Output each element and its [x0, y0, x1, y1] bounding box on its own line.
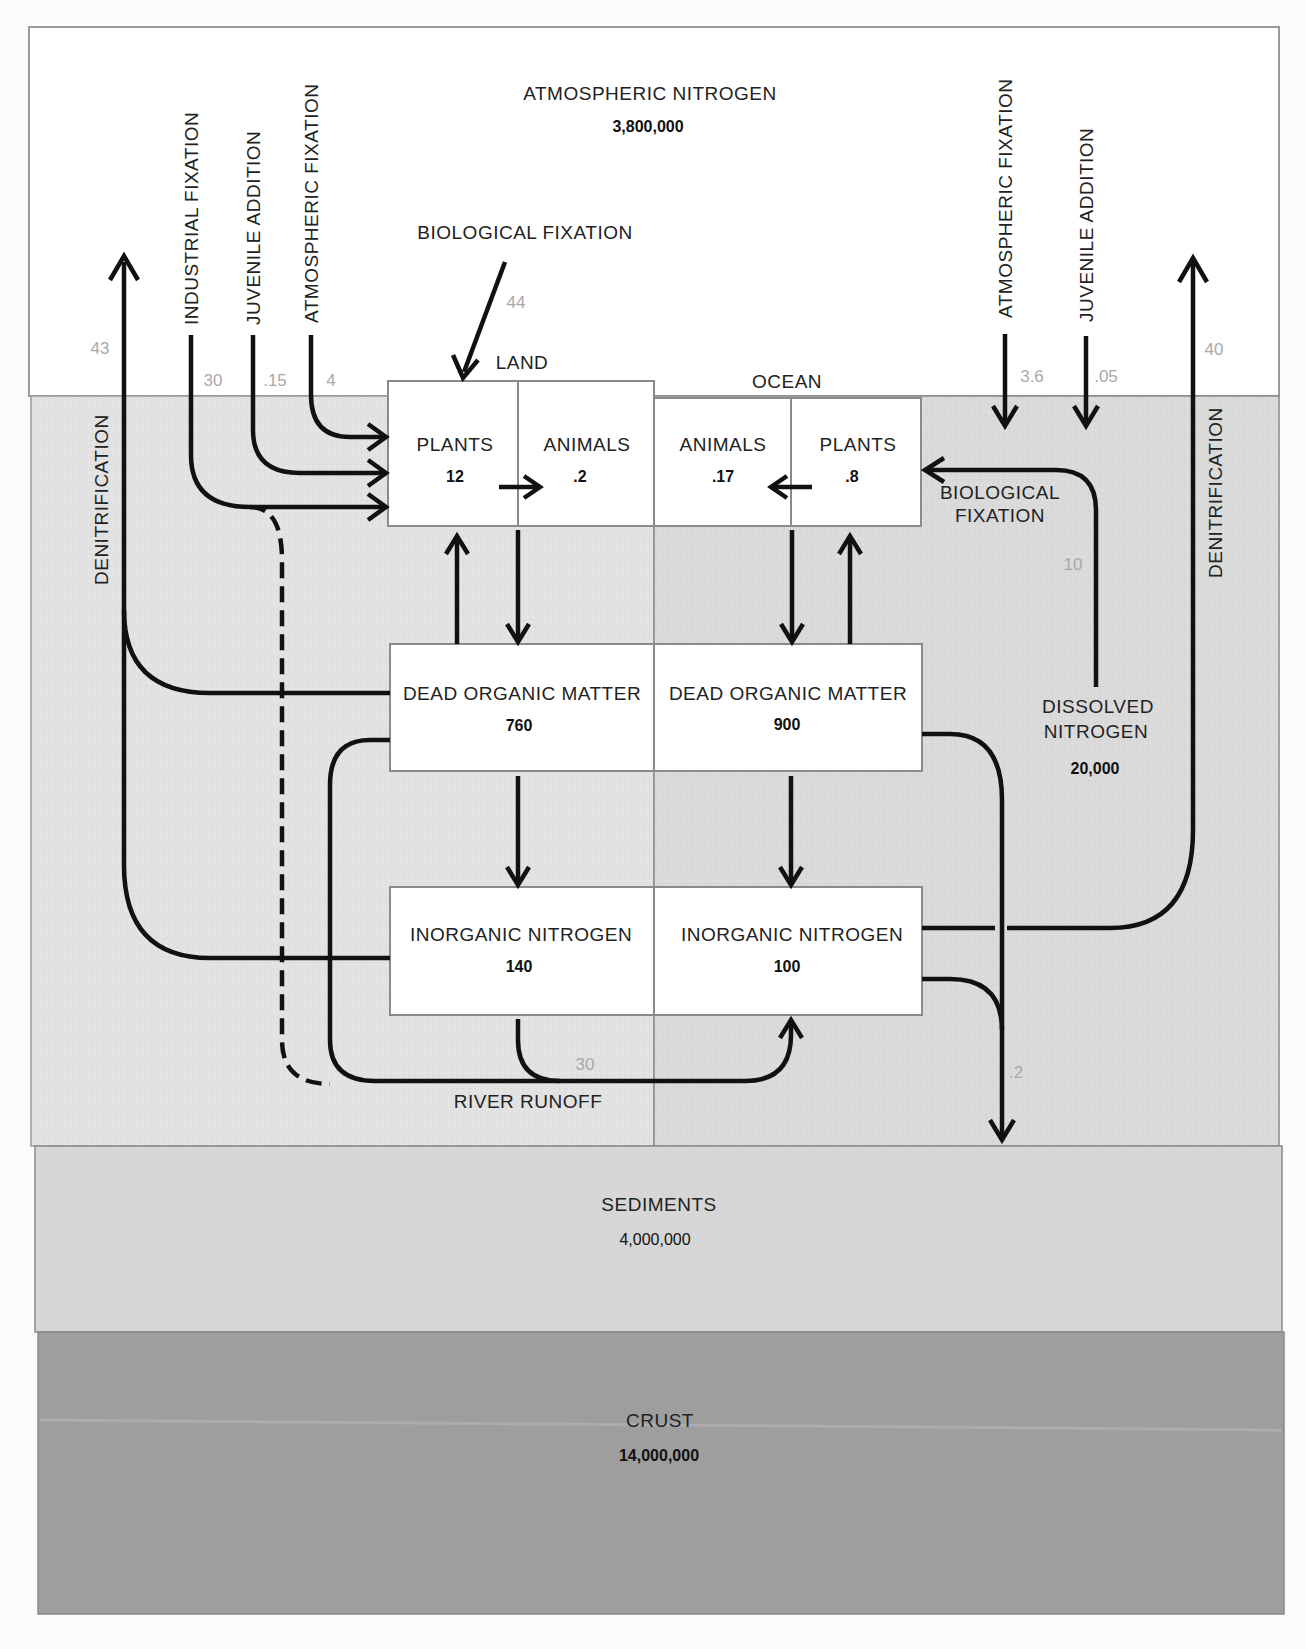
crust-value: 14,000,000: [619, 1447, 699, 1464]
ocean-inorganic-label: INORGANIC NITROGEN: [681, 924, 903, 945]
ocean-plants-value: .8: [845, 468, 858, 485]
sediments-label: SEDIMENTS: [601, 1194, 716, 1215]
flow-biological-fixation-ocean: 10: [1064, 555, 1083, 574]
atmospheric-nitrogen-label: ATMOSPHERIC NITROGEN: [523, 83, 777, 104]
ocean-dead-organic-value: 900: [774, 716, 801, 733]
flow-sedimentation: .2: [1009, 1063, 1023, 1082]
flow-atmospheric-fixation-land: 4: [326, 371, 335, 390]
land-animals-label: ANIMALS: [544, 434, 631, 455]
river-runoff-label: RIVER RUNOFF: [454, 1091, 603, 1112]
ocean-animals-label: ANIMALS: [680, 434, 767, 455]
biological-fixation-land-label: BIOLOGICAL FIXATION: [417, 222, 632, 243]
land-dead-organic-label: DEAD ORGANIC MATTER: [403, 683, 641, 704]
biological-fixation-ocean-label-line1: BIOLOGICAL: [940, 482, 1060, 503]
sediments-value: 4,000,000: [619, 1231, 690, 1248]
atmospheric-fixation-land-label: ATMOSPHERIC FIXATION: [301, 84, 322, 323]
nitrogen-cycle-diagram: ATMOSPHERIC NITROGEN 3,800,000 INDUSTRIA…: [0, 0, 1306, 1649]
land-inorganic-box: [390, 887, 654, 1015]
ocean-animals-box: [654, 398, 791, 526]
crust-label: CRUST: [626, 1410, 694, 1431]
juvenile-addition-land-label: JUVENILE ADDITION: [243, 131, 264, 325]
flow-denitrification-ocean: 40: [1205, 340, 1224, 359]
ocean-plants-label: PLANTS: [820, 434, 897, 455]
flow-atmospheric-fixation-ocean: 3.6: [1020, 367, 1044, 386]
industrial-fixation-label: INDUSTRIAL FIXATION: [181, 112, 202, 325]
ocean-dead-organic-label: DEAD ORGANIC MATTER: [669, 683, 907, 704]
atmospheric-nitrogen-value: 3,800,000: [612, 118, 683, 135]
flow-juvenile-addition-land: .15: [263, 371, 287, 390]
dissolved-nitrogen-label-line2: NITROGEN: [1044, 721, 1148, 742]
dissolved-nitrogen-label-line1: DISSOLVED: [1042, 696, 1154, 717]
flow-biological-fixation-land: 44: [507, 293, 526, 312]
ocean-inorganic-box: [654, 887, 922, 1015]
denitrification-ocean-label: DENITRIFICATION: [1205, 407, 1226, 578]
ocean-dead-organic-box: [654, 644, 922, 771]
ocean-inorganic-value: 100: [774, 958, 801, 975]
land-inorganic-label: INORGANIC NITROGEN: [410, 924, 632, 945]
flow-river-runoff: 30: [576, 1055, 595, 1074]
dissolved-nitrogen-value: 20,000: [1071, 760, 1120, 777]
land-dead-organic-box: [390, 644, 654, 771]
flow-juvenile-addition-ocean: .05: [1094, 367, 1118, 386]
flow-industrial-fixation: 30: [204, 371, 223, 390]
atmospheric-fixation-ocean-label: ATMOSPHERIC FIXATION: [995, 79, 1016, 318]
denitrification-land-label: DENITRIFICATION: [91, 414, 112, 585]
flow-denitrification-land: 43: [91, 339, 110, 358]
land-plants-value: 12: [446, 468, 464, 485]
ocean-label: OCEAN: [752, 371, 822, 392]
land-animals-value: .2: [573, 468, 586, 485]
biological-fixation-ocean-label-line2: FIXATION: [955, 505, 1045, 526]
land-dead-organic-value: 760: [506, 717, 533, 734]
land-label: LAND: [496, 352, 549, 373]
land-inorganic-value: 140: [506, 958, 533, 975]
ocean-animals-value: .17: [712, 468, 734, 485]
crust-region: [38, 1332, 1284, 1614]
juvenile-addition-ocean-label: JUVENILE ADDITION: [1076, 128, 1097, 322]
ocean-plants-box: [791, 398, 921, 526]
land-plants-label: PLANTS: [417, 434, 494, 455]
